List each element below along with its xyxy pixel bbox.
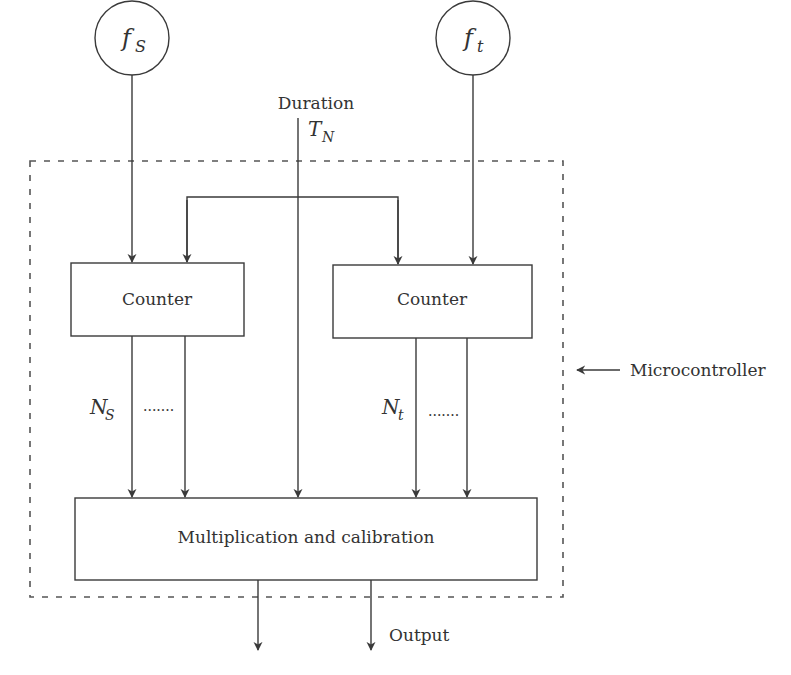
duration-label: Duration xyxy=(278,93,354,113)
multiplication-calibration-block: Multiplication and calibration xyxy=(75,498,537,580)
nt-subscript: t xyxy=(398,407,404,423)
source-fs-node: f S xyxy=(95,1,169,75)
counter-left-label: Counter xyxy=(122,289,193,309)
block-diagram: f S f t Duration T N Counter Counter N S… xyxy=(0,0,791,675)
multiplication-label: Multiplication and calibration xyxy=(178,527,435,547)
fs-subscript: S xyxy=(135,37,146,56)
source-ft-node: f t xyxy=(436,1,510,75)
counter-right-block: Counter xyxy=(333,265,532,338)
ft-subscript: t xyxy=(477,37,484,56)
output-label: Output xyxy=(389,625,450,645)
ns-ellipsis: ....... xyxy=(143,398,174,414)
nt-ellipsis: ....... xyxy=(428,403,459,419)
duration-symbol: T xyxy=(308,117,323,141)
counter-right-label: Counter xyxy=(397,289,468,309)
counter-left-block: Counter xyxy=(71,263,244,336)
ns-subscript: S xyxy=(105,407,115,423)
microcontroller-label: Microcontroller xyxy=(630,360,767,380)
gate-bus-line xyxy=(187,197,398,264)
duration-subscript: N xyxy=(321,129,335,145)
